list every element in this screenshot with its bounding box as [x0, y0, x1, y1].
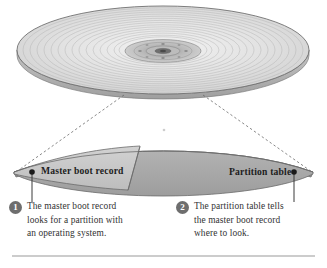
speck-artifact — [163, 129, 166, 132]
callout-2-line-1: The partition table tells — [194, 200, 284, 214]
callout-2-text: The partition table tells the master boo… — [194, 200, 284, 241]
band-label-partition-table: Partition table — [229, 166, 291, 177]
endpoint-dot-left — [29, 169, 35, 175]
disk-platter-icon — [17, 6, 309, 99]
callout-2-badge: 2 — [176, 201, 189, 214]
callout-1-line-3: an operating system. — [27, 227, 123, 241]
callout-2: 2 The partition table tells the master b… — [176, 200, 324, 241]
disk-boot-record-diagram: Master boot record Partition table 1 The… — [0, 0, 327, 268]
callout-2-line-2: the master boot record — [194, 214, 284, 228]
callout-1: 1 The master boot record looks for a par… — [9, 200, 159, 241]
spindle-hub-icon — [125, 40, 201, 63]
callout-1-text: The master boot record looks for a parti… — [27, 200, 123, 241]
band-label-master-boot-record: Master boot record — [41, 165, 124, 176]
callout-1-line-1: The master boot record — [27, 200, 123, 214]
callout-1-badge: 1 — [9, 201, 22, 214]
endpoint-dot-right — [291, 169, 297, 175]
callout-2-line-3: where to look. — [194, 227, 284, 241]
callout-1-line-2: looks for a partition with — [27, 214, 123, 228]
